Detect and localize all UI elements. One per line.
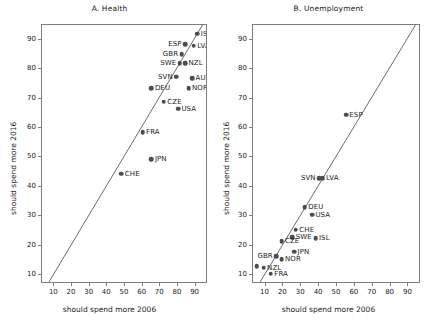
- data-point: [149, 86, 154, 91]
- y-axis-tick-label: 50: [27, 152, 36, 160]
- x-axis-tick-label: 20: [67, 288, 76, 296]
- x-axis-tick-label: 50: [120, 288, 129, 296]
- x-axis-tick-label: 20: [278, 288, 287, 296]
- y-axis-tick: [249, 98, 252, 99]
- panel-a-x-axis-title: should spend more 2006: [0, 305, 219, 314]
- x-axis-tick: [106, 283, 107, 286]
- data-point: [317, 176, 322, 181]
- panel-b-y-axis-title: should spend more 2016: [222, 122, 231, 215]
- x-axis-tick: [407, 283, 408, 286]
- x-axis-tick-label: 40: [314, 288, 323, 296]
- x-axis-tick-label: 10: [49, 288, 58, 296]
- panel-b-title: B. Unemployment: [219, 4, 438, 13]
- point-label: ISL: [319, 235, 330, 242]
- y-axis-tick-label: 80: [238, 64, 247, 72]
- data-point: [279, 257, 284, 262]
- data-point: [195, 32, 200, 37]
- point-label: JPN: [155, 155, 167, 162]
- panel-b-x-axis-title: should spend more 2006: [219, 305, 438, 314]
- data-point: [292, 249, 297, 254]
- y-axis-tick-label: 20: [238, 241, 247, 249]
- x-axis-tick: [336, 283, 337, 286]
- x-axis-tick: [124, 283, 125, 286]
- point-label: NZL: [188, 60, 202, 67]
- y-axis-tick: [38, 39, 41, 40]
- x-axis-tick: [372, 283, 373, 286]
- y-axis-tick: [249, 245, 252, 246]
- x-axis-tick: [71, 283, 72, 286]
- y-axis-tick-label: 60: [238, 123, 247, 131]
- y-axis-tick: [38, 156, 41, 157]
- y-axis-tick-label: 90: [27, 35, 36, 43]
- y-axis-tick-label: 20: [27, 241, 36, 249]
- point-label: NOR: [192, 85, 206, 92]
- y-axis-tick-label: 10: [238, 270, 247, 278]
- x-axis-tick: [354, 283, 355, 286]
- panel-b-plot-area: ESPLVASVNDEUUSACHESWEISLCZEJPNGBRNORAUSN…: [253, 25, 419, 282]
- x-axis-tick: [142, 283, 143, 286]
- point-label: FRA: [274, 270, 288, 277]
- y-axis-tick: [38, 127, 41, 128]
- point-label: CZE: [167, 98, 181, 105]
- x-axis-tick-label: 30: [84, 288, 93, 296]
- data-point: [254, 264, 259, 269]
- point-label: LVA: [197, 42, 206, 49]
- x-axis-tick: [265, 283, 266, 286]
- data-point: [313, 236, 318, 241]
- x-axis-tick: [195, 283, 196, 286]
- data-point: [261, 266, 266, 271]
- point-label: CZE: [285, 238, 299, 245]
- y-axis-tick-label: 70: [27, 94, 36, 102]
- data-point: [162, 99, 167, 104]
- point-label: ISL: [201, 30, 206, 37]
- y-axis-tick: [249, 156, 252, 157]
- data-point: [294, 227, 299, 232]
- y-axis-tick-label: 70: [238, 94, 247, 102]
- x-axis-tick-label: 10: [260, 288, 269, 296]
- x-axis-tick: [390, 283, 391, 286]
- x-axis-tick: [282, 283, 283, 286]
- x-axis-tick-label: 90: [403, 288, 412, 296]
- point-label: GBR: [257, 253, 272, 260]
- x-axis-tick: [300, 283, 301, 286]
- reference-line-b: [253, 25, 419, 282]
- y-axis-tick: [38, 245, 41, 246]
- panel-b-plot-frame: ESPLVASVNDEUUSACHESWEISLCZEJPNGBRNORAUSN…: [252, 24, 420, 283]
- y-axis-tick: [249, 68, 252, 69]
- data-point: [174, 74, 179, 79]
- x-axis-tick: [53, 283, 54, 286]
- point-label: DEU: [155, 85, 170, 92]
- x-axis-tick: [318, 283, 319, 286]
- x-axis-tick-label: 30: [296, 288, 305, 296]
- panel-health: A. Health ISLLVAESPGBRNZLSWEAUSSVNNORDEU…: [0, 0, 219, 325]
- data-point: [190, 76, 195, 81]
- x-axis-tick-label: 70: [367, 288, 376, 296]
- y-axis-tick: [249, 39, 252, 40]
- x-axis-tick-label: 80: [173, 288, 182, 296]
- x-axis-tick: [159, 283, 160, 286]
- point-label: GBR: [163, 51, 178, 58]
- data-point: [183, 61, 188, 66]
- x-axis-tick-label: 60: [349, 288, 358, 296]
- x-axis-tick-label: 50: [332, 288, 341, 296]
- point-label: USA: [315, 211, 330, 218]
- y-axis-tick: [249, 186, 252, 187]
- y-axis-tick: [38, 215, 41, 216]
- point-label: SVN: [301, 175, 316, 182]
- x-axis-tick-label: 90: [190, 288, 199, 296]
- panel-a-y-axis-title: should spend more 2016: [9, 122, 18, 215]
- data-point: [149, 157, 154, 162]
- point-label: USA: [181, 105, 196, 112]
- point-label: NOR: [285, 255, 301, 262]
- data-point: [344, 112, 349, 117]
- y-axis-tick: [38, 274, 41, 275]
- data-point: [310, 213, 315, 218]
- point-label: FRA: [146, 129, 160, 136]
- x-axis-tick-label: 70: [155, 288, 164, 296]
- panel-a-title: A. Health: [0, 4, 219, 13]
- x-axis-tick-label: 40: [102, 288, 111, 296]
- y-axis-tick: [38, 98, 41, 99]
- data-point: [183, 42, 188, 47]
- point-label: SWE: [160, 60, 176, 67]
- x-axis-tick: [89, 283, 90, 286]
